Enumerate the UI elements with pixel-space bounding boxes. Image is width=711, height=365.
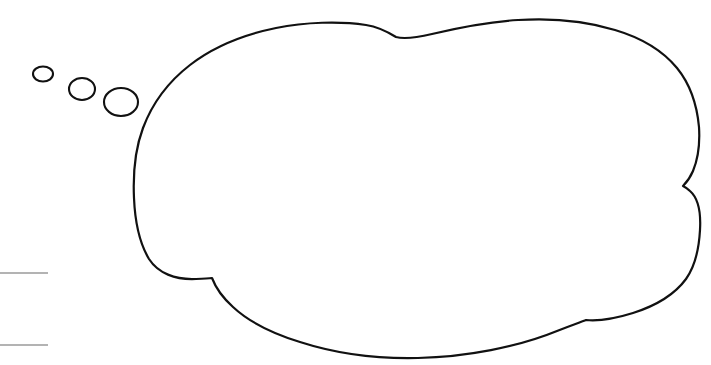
drawing-canvas [0, 0, 711, 365]
trail-bubble-small [33, 67, 53, 82]
thought-bubble-drawing [0, 0, 711, 365]
trail-bubble-medium [69, 78, 95, 100]
trail-bubble-large [104, 88, 138, 116]
